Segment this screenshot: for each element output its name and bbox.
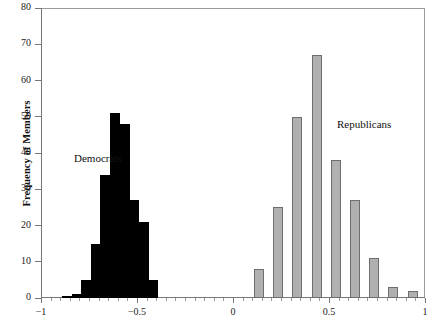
histogram-bar: [148, 280, 158, 298]
series-annotation-republicans: Republicans: [337, 118, 391, 130]
histogram-bar: [129, 200, 139, 298]
y-axis-tick: [35, 261, 41, 262]
x-axis-minor-tick: [415, 298, 416, 301]
x-axis-minor-tick: [108, 298, 109, 301]
x-axis-tick: [425, 298, 426, 303]
x-axis-minor-tick: [319, 298, 320, 301]
x-axis-minor-tick: [262, 298, 263, 301]
histogram-bar: [254, 269, 264, 298]
y-axis-tick: [35, 225, 41, 226]
y-axis-tick-label: 60: [5, 74, 31, 85]
x-axis-minor-tick: [147, 298, 148, 301]
y-axis-tick-label: 80: [5, 1, 31, 12]
y-axis-tick-label: 70: [5, 37, 31, 48]
x-axis-minor-tick: [99, 298, 100, 301]
x-axis-tick: [329, 298, 330, 303]
x-axis-tick: [233, 298, 234, 303]
histogram-bar: [350, 200, 360, 298]
x-axis-tick: [41, 298, 42, 303]
x-axis-minor-tick: [156, 298, 157, 301]
x-axis-minor-tick: [367, 298, 368, 301]
x-axis-tick-label: 1: [405, 306, 434, 317]
x-axis-minor-tick: [195, 298, 196, 301]
series-annotation-democrats: Democrats: [74, 152, 122, 164]
x-axis-minor-tick: [377, 298, 378, 301]
x-axis-minor-tick: [223, 298, 224, 301]
x-axis-minor-tick: [175, 298, 176, 301]
x-axis-minor-tick: [281, 298, 282, 301]
x-axis-minor-tick: [60, 298, 61, 301]
y-axis-tick: [35, 8, 41, 9]
histogram-bar: [408, 291, 418, 298]
x-axis-tick-label: 0.5: [309, 306, 349, 317]
x-axis-minor-tick: [339, 298, 340, 301]
y-axis-tick-label: 50: [5, 110, 31, 121]
histogram-bar: [331, 160, 341, 298]
histogram-bar: [369, 258, 379, 298]
histogram-chart: Frequency of Members 01020304050607080 −…: [0, 0, 434, 334]
y-axis-tick-label: 20: [5, 219, 31, 230]
x-axis-minor-tick: [252, 298, 253, 301]
histogram-bar: [312, 55, 322, 298]
x-axis-minor-tick: [291, 298, 292, 301]
y-axis-tick: [35, 116, 41, 117]
x-axis-tick-label: −0.5: [117, 306, 157, 317]
x-axis-minor-tick: [406, 298, 407, 301]
x-axis-minor-tick: [51, 298, 52, 301]
y-axis-tick: [35, 189, 41, 190]
chart-title: [0, 0, 434, 1]
x-axis-minor-tick: [396, 298, 397, 301]
x-axis-minor-tick: [79, 298, 80, 301]
x-axis-minor-tick: [243, 298, 244, 301]
x-axis-minor-tick: [300, 298, 301, 301]
x-axis-minor-tick: [310, 298, 311, 301]
histogram-bar: [91, 244, 101, 298]
x-axis-minor-tick: [89, 298, 90, 301]
y-axis-tick-label: 40: [5, 146, 31, 157]
x-axis-minor-tick: [358, 298, 359, 301]
x-axis-minor-tick: [127, 298, 128, 301]
x-axis-minor-tick: [387, 298, 388, 301]
x-axis-tick-label: −1: [21, 306, 61, 317]
y-axis-tick-label: 10: [5, 255, 31, 266]
histogram-bar: [139, 222, 149, 298]
y-axis-tick: [35, 80, 41, 81]
x-axis-minor-tick: [214, 298, 215, 301]
y-axis-tick: [35, 153, 41, 154]
histogram-bar: [292, 117, 302, 298]
histogram-bar: [388, 287, 398, 298]
y-axis-tick-label: 0: [5, 291, 31, 302]
y-axis-tick-label: 30: [5, 182, 31, 193]
x-axis-minor-tick: [348, 298, 349, 301]
x-axis-minor-tick: [204, 298, 205, 301]
x-axis-minor-tick: [166, 298, 167, 301]
x-axis-tick: [137, 298, 138, 303]
histogram-bar: [120, 124, 130, 298]
histogram-bar: [100, 175, 110, 298]
y-axis-tick: [35, 44, 41, 45]
x-axis-minor-tick: [118, 298, 119, 301]
x-axis-minor-tick: [185, 298, 186, 301]
histogram-bar: [273, 207, 283, 298]
x-axis-minor-tick: [271, 298, 272, 301]
x-axis-minor-tick: [70, 298, 71, 301]
histogram-bar: [110, 113, 120, 298]
x-axis-tick-label: 0: [213, 306, 253, 317]
histogram-bar: [81, 280, 91, 298]
